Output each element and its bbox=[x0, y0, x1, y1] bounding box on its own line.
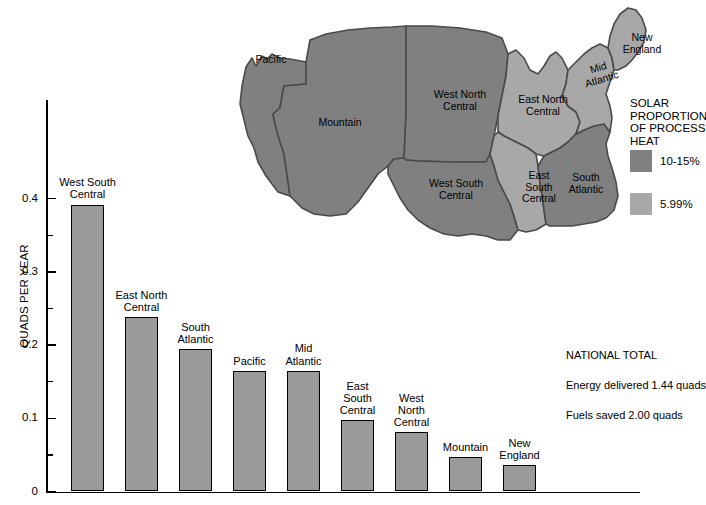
y-tick-label: 0.2 bbox=[4, 339, 38, 351]
bar-east north-central[interactable] bbox=[125, 317, 158, 491]
bar-mid-atlantic[interactable] bbox=[287, 371, 320, 492]
bar-east-south-central[interactable] bbox=[341, 420, 374, 491]
bar-chart: QUADS PER YEAR 00.10.20.30.4 West South … bbox=[0, 0, 706, 505]
bar-label: West South Central bbox=[50, 176, 126, 200]
y-tick-major bbox=[47, 344, 56, 346]
y-tick-label: 0.4 bbox=[4, 193, 38, 205]
x-axis-line bbox=[46, 492, 640, 494]
y-tick-minor bbox=[47, 308, 53, 310]
y-tick-label: 0.1 bbox=[4, 412, 38, 424]
bar-label: New England bbox=[482, 437, 558, 461]
bar-south-atlantic[interactable] bbox=[179, 349, 212, 491]
y-tick-label: 0.3 bbox=[4, 266, 38, 278]
y-axis-line bbox=[46, 100, 48, 492]
y-tick-minor bbox=[47, 235, 53, 237]
y-tick-major bbox=[47, 271, 56, 273]
bar-new-england[interactable] bbox=[503, 465, 536, 491]
bar-west south-central[interactable] bbox=[71, 205, 104, 492]
y-tick-major bbox=[47, 418, 56, 420]
bar-label: South Atlantic bbox=[158, 321, 234, 345]
bar-west-north-central[interactable] bbox=[395, 432, 428, 491]
bar-label: West North Central bbox=[374, 392, 450, 429]
bar-label: East North Central bbox=[104, 289, 180, 313]
y-tick-major bbox=[47, 491, 56, 493]
bar-pacific[interactable] bbox=[233, 371, 266, 492]
y-tick-label: 0 bbox=[4, 486, 38, 498]
figure-root: Pacific Mountain West North Central West… bbox=[0, 0, 706, 505]
y-tick-minor bbox=[47, 381, 53, 383]
bar-mountain[interactable] bbox=[449, 457, 482, 491]
y-tick-minor bbox=[47, 454, 53, 456]
bar-label: Mid Atlantic bbox=[266, 342, 342, 366]
